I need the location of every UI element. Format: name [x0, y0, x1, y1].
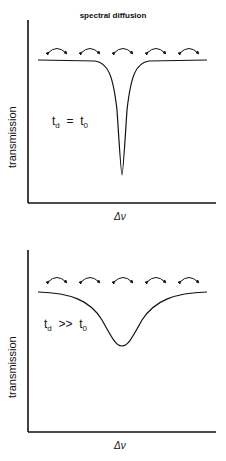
bottom-diffusion-arrows [48, 278, 198, 283]
bottom-condition: td >> t0 [44, 317, 87, 333]
bottom-xlabel: Δν [114, 440, 126, 451]
top-xlabel: Δν [114, 211, 126, 222]
bottom-ylabel: transmission [6, 336, 18, 398]
top-diffusion-arrows [48, 49, 198, 54]
top-ylabel: transmission [6, 106, 18, 168]
diagram-canvas [0, 0, 226, 461]
top-condition: td = t0 [52, 114, 88, 130]
figure-title: spectral diffusion [0, 11, 226, 20]
